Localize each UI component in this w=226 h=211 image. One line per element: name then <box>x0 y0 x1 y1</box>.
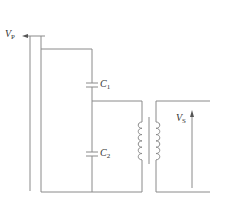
vp-arrow-head <box>22 34 28 38</box>
c1-label: C1 <box>100 79 110 91</box>
secondary-coil <box>156 122 160 160</box>
vp-label: VP <box>5 29 15 41</box>
circuit-diagram <box>0 0 226 211</box>
c2-label-main: C <box>100 147 107 158</box>
primary-coil <box>138 122 142 160</box>
vs-label-sub: S <box>182 117 186 125</box>
c2-label-sub: 2 <box>107 152 111 160</box>
c1-label-sub: 1 <box>107 83 111 91</box>
c2-label: C2 <box>100 148 110 160</box>
c1-label-main: C <box>100 78 107 89</box>
vs-label: VS <box>176 113 186 125</box>
vs-arrow-head <box>190 110 194 117</box>
vp-label-sub: P <box>11 33 15 41</box>
